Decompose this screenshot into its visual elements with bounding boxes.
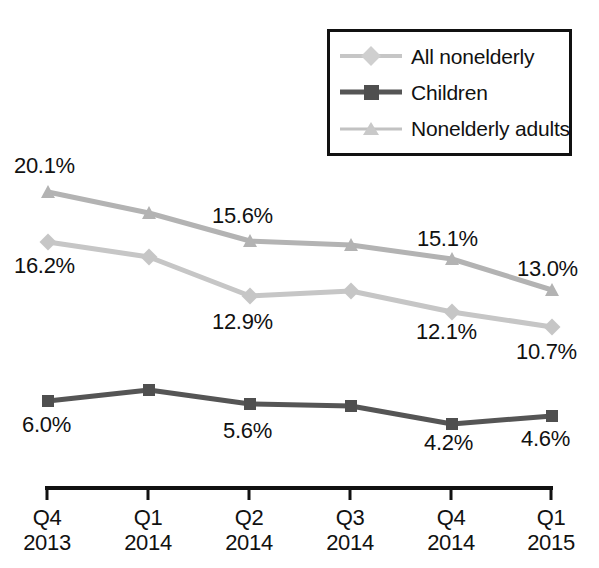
- data-point-marker: [42, 395, 54, 407]
- legend-swatch-all-nonelderly: [340, 47, 402, 65]
- figure-caption: [16, 556, 586, 568]
- x-tick-label-q4-2013: Q4 2013: [7, 505, 87, 555]
- x-tick-quarter: Q3: [310, 505, 390, 530]
- data-point-marker: [544, 319, 561, 336]
- triangle-icon: [363, 122, 379, 135]
- data-point-marker: [345, 400, 357, 412]
- series-line-all-nonelderly: [48, 242, 552, 327]
- x-tick-label-q3-2014: Q3 2014: [310, 505, 390, 555]
- square-icon: [364, 85, 379, 100]
- x-tick-quarter: Q2: [209, 505, 289, 530]
- data-label-children-q1-2015: 4.6%: [521, 428, 570, 450]
- x-tick-label-q1-2015: Q1 2015: [511, 505, 591, 555]
- legend-swatch-children: [340, 83, 402, 101]
- chart-legend: All nonelderly Children Nonelderly adult…: [327, 29, 572, 156]
- x-tick-year: 2013: [7, 530, 87, 555]
- data-point-marker: [40, 234, 57, 251]
- data-label-adults-q4-2013: 20.1%: [14, 155, 75, 177]
- legend-item-all-nonelderly[interactable]: All nonelderly: [330, 39, 569, 73]
- x-tick-quarter: Q4: [7, 505, 87, 530]
- x-tick-year: 2015: [511, 530, 591, 555]
- data-label-children-q2-2014: 5.6%: [223, 420, 272, 442]
- data-label-children-q4-2014: 4.2%: [424, 432, 473, 454]
- legend-item-children[interactable]: Children: [330, 75, 569, 109]
- x-tick-quarter: Q1: [108, 505, 188, 530]
- data-label-adults-q1-2015: 13.0%: [517, 258, 578, 280]
- series-all-nonelderly: [40, 234, 561, 336]
- data-point-marker: [141, 249, 158, 266]
- data-point-marker: [343, 283, 360, 300]
- data-label-all-q4-2013: 16.2%: [14, 255, 75, 277]
- data-label-adults-q2-2014: 15.6%: [212, 205, 273, 227]
- legend-item-nonelderly-adults[interactable]: Nonelderly adults: [330, 112, 569, 146]
- x-tick-label-q2-2014: Q2 2014: [209, 505, 289, 555]
- legend-label-all-nonelderly: All nonelderly: [411, 46, 534, 67]
- data-point-marker: [242, 288, 259, 305]
- legend-swatch-nonelderly-adults: [340, 120, 402, 138]
- series-line-children: [48, 390, 552, 424]
- data-label-adults-q4-2014: 15.1%: [417, 228, 478, 250]
- data-point-marker: [546, 410, 558, 422]
- x-tick-year: 2014: [108, 530, 188, 555]
- x-tick-label-q4-2014: Q4 2014: [411, 505, 491, 555]
- x-tick-quarter: Q4: [411, 505, 491, 530]
- series-children: [42, 384, 558, 430]
- data-label-all-q1-2015: 10.7%: [516, 341, 577, 363]
- data-label-all-q4-2014: 12.1%: [416, 321, 477, 343]
- x-axis: [45, 488, 553, 500]
- x-tick-year: 2014: [411, 530, 491, 555]
- x-tick-year: 2014: [310, 530, 390, 555]
- data-point-marker: [444, 304, 461, 321]
- line-chart: 20.1% 16.2% 15.6% 12.9% 15.1% 12.1% 13.0…: [0, 0, 599, 568]
- data-label-all-q2-2014: 12.9%: [212, 311, 273, 333]
- data-point-marker: [244, 398, 256, 410]
- x-tick-year: 2014: [209, 530, 289, 555]
- legend-label-children: Children: [411, 82, 488, 103]
- series-nonelderly-adults: [41, 185, 559, 296]
- data-point-marker: [446, 418, 458, 430]
- x-tick-label-q1-2014: Q1 2014: [108, 505, 188, 555]
- legend-label-nonelderly-adults: Nonelderly adults: [411, 118, 570, 139]
- data-label-children-q4-2013: 6.0%: [22, 414, 71, 436]
- x-tick-quarter: Q1: [511, 505, 591, 530]
- diamond-icon: [361, 46, 381, 66]
- data-point-marker: [143, 384, 155, 396]
